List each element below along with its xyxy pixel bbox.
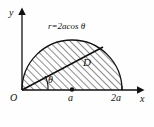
axis-label-y: y xyxy=(9,8,13,18)
x-tick-label-2a: 2a xyxy=(111,93,121,103)
figure-canvas: y x O a 2a θ D r=2acos θ xyxy=(0,0,154,127)
curve-equation-label: r=2acos θ xyxy=(48,22,85,31)
polar-region-diagram xyxy=(0,0,154,127)
angle-label-theta: θ xyxy=(48,75,53,85)
origin-label: O xyxy=(10,93,17,103)
x-tick-label-a: a xyxy=(68,93,73,103)
region-label-d: D xyxy=(83,57,91,68)
axis-label-x: x xyxy=(140,94,144,104)
